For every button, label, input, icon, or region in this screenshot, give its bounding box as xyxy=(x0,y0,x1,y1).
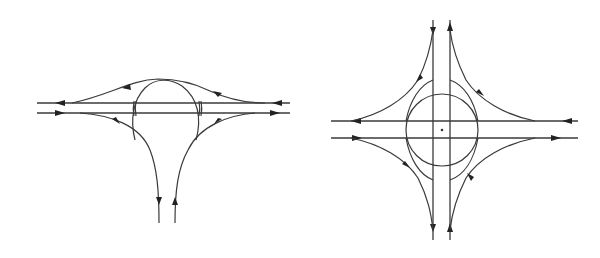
right-ramp-arrow-ne xyxy=(476,89,484,96)
right-arrow-north xyxy=(447,22,453,31)
right-arrow-west-entry xyxy=(562,118,572,124)
left-arrow-west-entry xyxy=(272,100,282,106)
right-inner-ne xyxy=(450,80,478,121)
left-interchange-diagram xyxy=(37,79,290,223)
left-branch-arrow-down xyxy=(156,197,162,205)
left-arrow-east xyxy=(55,110,65,116)
right-interchange-diagram xyxy=(331,20,578,240)
right-ramp-arrow-se xyxy=(467,173,474,181)
right-inner-sw xyxy=(406,138,433,180)
left-loop xyxy=(133,80,199,140)
right-inner-nw xyxy=(406,80,433,121)
left-lower-ramp-west xyxy=(80,113,159,223)
right-arrow-east-exit xyxy=(551,135,561,141)
right-ramp-arrow-nw xyxy=(416,74,423,82)
right-center-marker xyxy=(441,129,444,132)
left-upper-ramp-arrow-2 xyxy=(213,91,222,97)
left-lower-arrow-1 xyxy=(112,117,120,124)
right-ramp-sw xyxy=(351,138,433,230)
left-arrow-east-exit xyxy=(270,110,280,116)
left-lower-ramp-east xyxy=(175,113,255,223)
interchange-figure xyxy=(0,0,600,258)
right-ramp-se xyxy=(450,138,535,230)
left-branch-arrow-up xyxy=(172,197,178,205)
left-arrow-west xyxy=(55,100,65,106)
right-ramp-ne xyxy=(450,30,535,121)
left-upper-ramp xyxy=(72,79,265,103)
